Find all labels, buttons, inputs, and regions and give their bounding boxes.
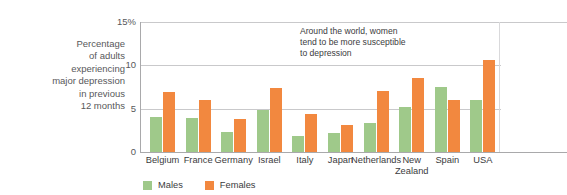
y-axis-ticks: 051015% bbox=[98, 22, 136, 152]
legend-item-males: Males bbox=[143, 180, 183, 190]
y-axis-tick-label: 5 bbox=[102, 103, 136, 114]
bar-males bbox=[186, 118, 198, 152]
y-axis-tick-label: 15% bbox=[102, 16, 136, 27]
bar-females bbox=[377, 91, 389, 152]
bar-males bbox=[328, 133, 340, 152]
bar-females bbox=[448, 100, 460, 152]
bar-males bbox=[257, 110, 269, 152]
bar-males bbox=[150, 117, 162, 152]
bar-males bbox=[435, 87, 447, 152]
bar-females bbox=[270, 88, 282, 152]
annotation-line: Around the world, women bbox=[300, 26, 406, 37]
legend-label: Males bbox=[158, 180, 183, 190]
depression-by-gender-bar-chart: Percentage of adults experiencing major … bbox=[0, 0, 567, 195]
bar-females bbox=[305, 114, 317, 152]
legend-label: Females bbox=[220, 180, 256, 190]
bar-females bbox=[163, 92, 175, 152]
bar-males bbox=[292, 136, 304, 152]
bar-males bbox=[470, 100, 482, 152]
bar-group bbox=[470, 22, 495, 152]
annotation-line: to depression bbox=[300, 48, 406, 59]
y-axis-tick-label: 10 bbox=[102, 59, 136, 70]
legend-item-females: Females bbox=[205, 180, 256, 190]
bar-group bbox=[435, 22, 460, 152]
chart-legend: Males Females bbox=[143, 180, 255, 190]
bar-females bbox=[483, 60, 495, 152]
bar-males bbox=[399, 107, 411, 152]
bar-males bbox=[364, 123, 376, 152]
bar-females bbox=[199, 100, 211, 152]
bar-females bbox=[234, 119, 246, 152]
legend-swatch-icon bbox=[143, 181, 152, 190]
bar-males bbox=[221, 132, 233, 152]
legend-swatch-icon bbox=[205, 181, 214, 190]
bar-group bbox=[186, 22, 211, 152]
gridline bbox=[140, 152, 567, 153]
bar-females bbox=[412, 78, 424, 152]
bar-group bbox=[150, 22, 175, 152]
annotation-line: tend to be more susceptible bbox=[300, 37, 406, 48]
bar-group bbox=[221, 22, 246, 152]
x-axis-tick-label: USA bbox=[450, 155, 515, 166]
chart-annotation: Around the world, women tend to be more … bbox=[300, 26, 406, 60]
bar-group bbox=[257, 22, 282, 152]
bar-females bbox=[341, 125, 353, 152]
